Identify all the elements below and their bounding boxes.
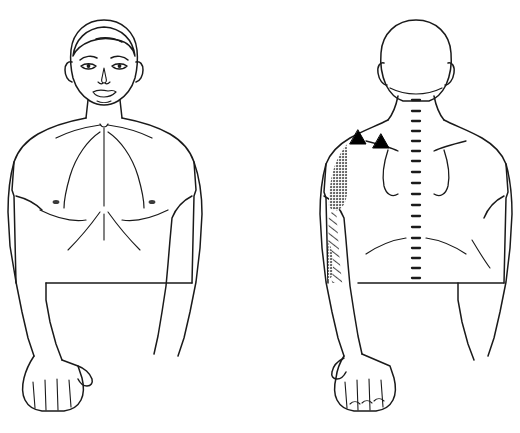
anterior-pupil-left [87, 64, 91, 68]
anterior-nipple-left [53, 200, 60, 204]
body-chart-canvas [0, 0, 520, 433]
anterior-nipple-right [149, 200, 156, 204]
pain-referral-diagram: Referred pain pattern diagram - deltoid … [0, 0, 520, 433]
anterior-pupil-right [118, 64, 122, 68]
